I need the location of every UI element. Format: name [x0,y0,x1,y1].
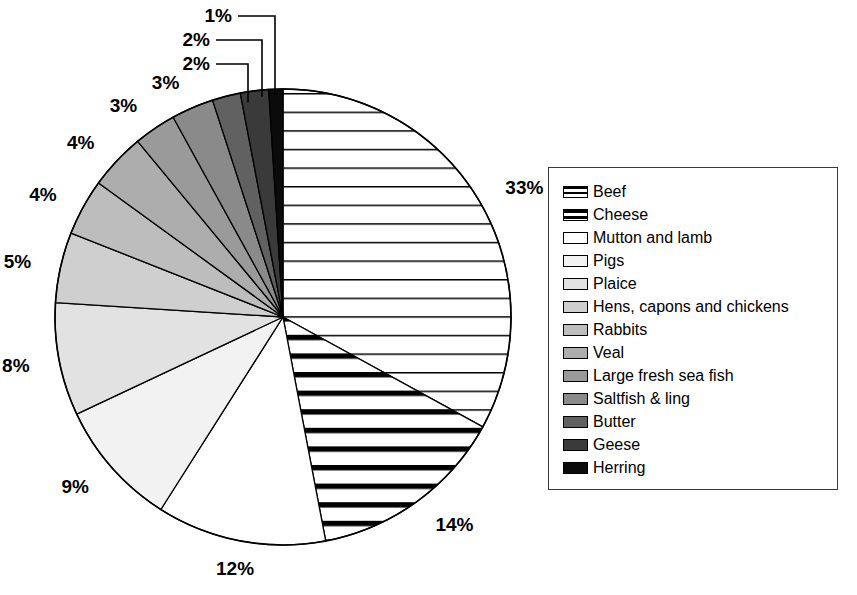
legend-item-label: Geese [593,437,640,453]
legend-swatch [563,439,588,451]
legend-item-label: Herring [593,460,645,476]
slice-percent-label: 8% [2,355,30,376]
legend-swatch [563,209,588,221]
legend-swatch [563,255,588,267]
slice-percent-label: 12% [216,558,254,579]
slice-percent-label: 2% [183,53,211,74]
legend-swatch [563,370,588,382]
legend-swatch [563,324,588,336]
legend-item-label: Mutton and lamb [593,230,712,246]
legend-item[interactable]: Veal [563,341,837,364]
legend-items: BeefCheeseMutton and lambPigsPlaiceHens,… [563,180,837,479]
legend-item[interactable]: Hens, capons and chickens [563,295,837,318]
legend-item-label: Cheese [593,207,648,223]
legend-item[interactable]: Plaice [563,272,837,295]
legend-item-label: Rabbits [593,322,647,338]
slice-percent-label: 3% [152,72,180,93]
legend-box: BeefCheeseMutton and lambPigsPlaiceHens,… [548,167,838,490]
legend-swatch [563,416,588,428]
slice-percent-label: 4% [67,132,95,153]
legend-item[interactable]: Beef [563,180,837,203]
slice-percent-label: 9% [62,476,90,497]
label-leader-line [216,40,262,97]
legend-item-label: Saltfish & ling [593,391,690,407]
pie-slices [55,89,511,545]
legend-swatch [563,232,588,244]
legend-item-label: Butter [593,414,636,430]
legend-item[interactable]: Herring [563,456,837,479]
legend-item-label: Beef [593,184,626,200]
legend-item[interactable]: Saltfish & ling [563,387,837,410]
legend-item-label: Veal [593,345,624,361]
legend-item-label: Pigs [593,253,624,269]
pie-chart-page: 33%14%12%9%8%5%4%4%3%3%2%2%1% BeefCheese… [0,0,857,595]
legend-item[interactable]: Mutton and lamb [563,226,837,249]
legend-item-label: Large fresh sea fish [593,368,734,384]
legend-item[interactable]: Pigs [563,249,837,272]
legend-swatch [563,393,588,405]
legend-swatch [563,301,588,313]
label-leader-line [238,16,275,95]
slice-percent-label: 2% [183,29,211,50]
legend-item[interactable]: Rabbits [563,318,837,341]
legend-swatch [563,347,588,359]
slice-percent-label: 33% [505,177,543,198]
slice-percent-label: 3% [110,95,138,116]
legend-item[interactable]: Cheese [563,203,837,226]
legend-item-label: Plaice [593,276,637,292]
slice-percent-label: 5% [4,251,32,272]
legend-swatch [563,278,588,290]
legend-item[interactable]: Geese [563,433,837,456]
legend-swatch [563,462,588,474]
slice-percent-label: 14% [435,514,473,535]
legend-swatch [563,186,588,198]
legend-item-label: Hens, capons and chickens [593,299,789,315]
slice-percent-label: 4% [29,184,57,205]
slice-percent-label: 1% [205,5,233,26]
legend-item[interactable]: Butter [563,410,837,433]
legend-item[interactable]: Large fresh sea fish [563,364,837,387]
